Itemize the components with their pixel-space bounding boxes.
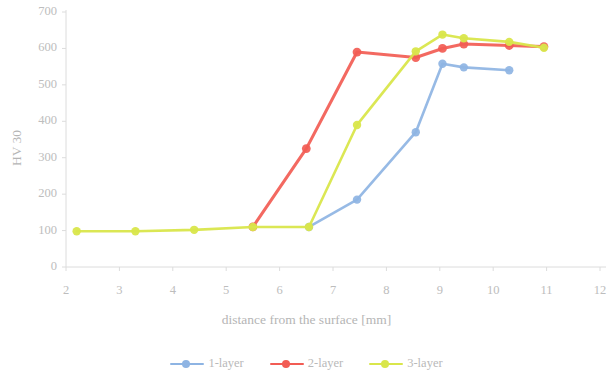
data-point-marker xyxy=(190,226,198,234)
data-series-group xyxy=(72,30,548,235)
legend-item-2-layer[interactable]: 2-layer xyxy=(270,356,343,371)
x-axis-tick-label: 2 xyxy=(51,283,81,298)
x-axis-tick-label: 7 xyxy=(318,283,348,298)
legend-label: 1-layer xyxy=(208,356,243,371)
y-axis-tick-label: 200 xyxy=(17,186,57,201)
legend-item-3-layer[interactable]: 3-layer xyxy=(369,356,442,371)
y-axis-tick-label: 0 xyxy=(17,259,57,274)
data-point-marker xyxy=(438,60,446,68)
data-point-marker xyxy=(505,66,513,74)
x-axis-tick-label: 11 xyxy=(532,283,562,298)
series-line xyxy=(77,35,544,232)
y-axis-tick-label: 600 xyxy=(17,40,57,55)
data-point-marker xyxy=(72,227,80,235)
data-point-marker xyxy=(412,128,420,136)
data-point-marker xyxy=(305,223,313,231)
data-point-marker xyxy=(540,44,548,52)
y-axis-title: HV 30 xyxy=(9,118,25,178)
x-axis-tick-label: 3 xyxy=(104,283,134,298)
x-axis-tick-label: 8 xyxy=(371,283,401,298)
series-1-layer xyxy=(305,60,514,232)
data-point-marker xyxy=(438,30,446,38)
x-axis-tick-label: 4 xyxy=(158,283,188,298)
series-3-layer xyxy=(72,30,548,235)
data-point-marker xyxy=(438,44,447,53)
data-point-marker xyxy=(353,121,361,129)
legend-item-1-layer[interactable]: 1-layer xyxy=(170,356,243,371)
chart-legend: 1-layer2-layer3-layer xyxy=(0,356,613,371)
hardness-depth-line-chart: 0100200300400500600700 23456789101112 HV… xyxy=(0,0,613,382)
y-axis-tick-label: 500 xyxy=(17,77,57,92)
x-axis-title: distance from the surface [mm] xyxy=(0,312,613,328)
data-point-marker xyxy=(505,38,513,46)
x-axis-tick-label: 6 xyxy=(265,283,295,298)
y-axis-tick-label: 700 xyxy=(17,4,57,19)
legend-label: 3-layer xyxy=(407,356,442,371)
data-point-marker xyxy=(460,63,468,71)
legend-marker-icon xyxy=(270,358,304,370)
data-point-marker xyxy=(302,144,311,153)
legend-label: 2-layer xyxy=(308,356,343,371)
y-axis-tick-label: 100 xyxy=(17,223,57,238)
legend-marker-icon xyxy=(170,358,204,370)
x-axis-tick-label: 5 xyxy=(211,283,241,298)
x-axis-tick-label: 9 xyxy=(425,283,455,298)
data-point-marker xyxy=(412,47,420,55)
data-point-marker xyxy=(460,34,468,42)
series-2-layer xyxy=(249,40,549,232)
legend-marker-icon xyxy=(369,358,403,370)
data-point-marker xyxy=(131,227,139,235)
x-axis-tick-label: 10 xyxy=(478,283,508,298)
data-point-marker xyxy=(353,195,361,203)
data-point-marker xyxy=(249,223,257,231)
data-point-marker xyxy=(353,48,362,57)
x-axis-tick-label: 12 xyxy=(585,283,613,298)
